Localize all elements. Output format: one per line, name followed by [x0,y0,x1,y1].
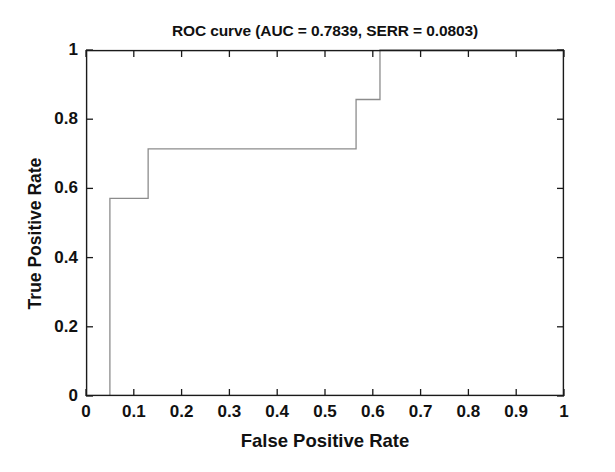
x-tick-label: 0.7 [396,402,446,422]
x-tick-label: 0.1 [109,402,159,422]
x-tick-label: 0 [61,402,111,422]
axes-box [87,51,564,396]
x-tick-label: 0.2 [157,402,207,422]
plot-svg [86,50,564,396]
plot-area [86,50,564,396]
y-axis-label: True Positive Rate [25,104,46,364]
roc-curve-group [110,50,564,396]
roc-curve-line [110,50,564,396]
chart-title: ROC curve (AUC = 0.7839, SERR = 0.0803) [86,22,564,40]
roc-chart-figure: ROC curve (AUC = 0.7839, SERR = 0.0803) … [0,0,615,472]
x-axis-label: False Positive Rate [86,430,564,452]
axis-ticks-group [86,50,564,396]
x-axis-tick-labels: 00.10.20.30.40.50.60.70.80.91 [86,402,564,426]
x-tick-label: 1 [539,402,589,422]
x-tick-label: 0.6 [348,402,398,422]
x-tick-label: 0.3 [204,402,254,422]
x-tick-label: 0.8 [443,402,493,422]
x-tick-label: 0.5 [300,402,350,422]
y-tick-label: 1 [38,40,78,60]
x-tick-label: 0.9 [491,402,541,422]
x-tick-label: 0.4 [252,402,302,422]
